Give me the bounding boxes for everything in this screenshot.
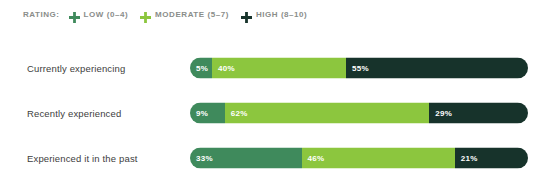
row-label: Experienced it in the past [27, 152, 138, 163]
legend-item-label: MODERATE (5–7) [155, 10, 229, 19]
bar-segment-low[interactable]: 5% [190, 57, 212, 78]
chart-legend: RATING: LOW (0–4) MODERATE (5–7) HIGH (8… [23, 9, 307, 20]
legend-item-low[interactable]: LOW (0–4) [69, 9, 129, 20]
plus-cross-icon [140, 9, 151, 20]
legend-item-high[interactable]: HIGH (8–10) [241, 9, 307, 20]
legend-item-moderate[interactable]: MODERATE (5–7) [140, 9, 229, 20]
bar-segment-low[interactable]: 9% [190, 102, 225, 123]
bar-segment-low[interactable]: 33% [190, 147, 302, 168]
chart-row: Currently experiencing 5% 40% 55% [0, 45, 556, 90]
bar-segment-high[interactable]: 29% [429, 102, 528, 123]
bar-segment-moderate[interactable]: 62% [225, 102, 429, 123]
segment-value: 62% [231, 108, 248, 117]
bar-segment-high[interactable]: 21% [455, 147, 528, 168]
segment-value: 46% [308, 153, 325, 162]
legend-title: RATING: [23, 10, 60, 19]
row-label: Currently experiencing [27, 62, 125, 73]
segment-value: 5% [196, 63, 208, 72]
segment-value: 21% [461, 153, 478, 162]
bar-segment-high[interactable]: 55% [346, 57, 528, 78]
segment-value: 55% [352, 63, 369, 72]
bar-segment-moderate[interactable]: 40% [212, 57, 346, 78]
segment-value: 9% [196, 108, 208, 117]
segment-value: 29% [435, 108, 452, 117]
stacked-bar: 5% 40% 55% [190, 57, 528, 78]
stacked-bar-chart: Currently experiencing 5% 40% 55% Recent… [0, 45, 556, 180]
plus-cross-icon [69, 9, 80, 20]
row-label: Recently experienced [27, 107, 121, 118]
segment-value: 40% [218, 63, 235, 72]
chart-row: Recently experienced 9% 62% 29% [0, 90, 556, 135]
legend-item-label: HIGH (8–10) [256, 10, 307, 19]
plus-cross-icon [241, 9, 252, 20]
legend-item-label: LOW (0–4) [84, 10, 129, 19]
stacked-bar: 33% 46% 21% [190, 147, 528, 168]
segment-value: 33% [196, 153, 213, 162]
chart-row: Experienced it in the past 33% 46% 21% [0, 135, 556, 180]
bar-segment-moderate[interactable]: 46% [302, 147, 455, 168]
stacked-bar: 9% 62% 29% [190, 102, 528, 123]
